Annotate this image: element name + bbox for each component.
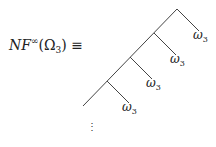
- leaf-sub: 3: [156, 83, 161, 92]
- leaf-label-1: ω3: [193, 28, 208, 44]
- leaf-label-4: ω3: [122, 100, 137, 116]
- leaf-sub: 3: [203, 35, 208, 44]
- leaf-symbol: ω: [122, 100, 132, 114]
- leaf-symbol: ω: [170, 52, 180, 66]
- leaf-sub: 3: [180, 59, 185, 68]
- leaf-sub: 3: [132, 107, 137, 116]
- continuation-dots: ⋮: [87, 124, 97, 129]
- tree-diagram: [0, 0, 216, 147]
- leaf-symbol: ω: [146, 76, 156, 90]
- leaf-label-3: ω3: [146, 76, 161, 92]
- leaf-label-2: ω3: [170, 52, 185, 68]
- leaf-symbol: ω: [193, 28, 203, 42]
